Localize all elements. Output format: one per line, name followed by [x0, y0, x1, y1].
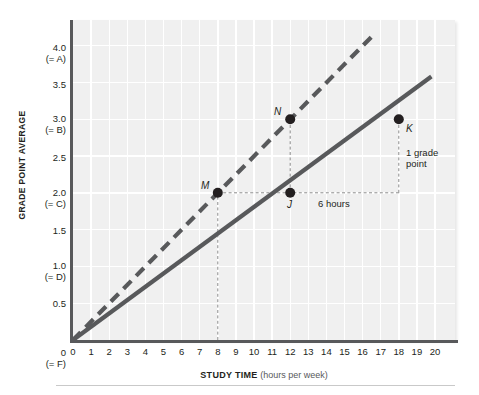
y-tick-3.5: 3.5: [6, 79, 66, 90]
rise-annotation-line1: 1 grade: [406, 147, 438, 158]
y-tick-3.0: 3.0 (= B): [6, 113, 66, 135]
y-tick-4.0: 4.0 (= A): [6, 42, 66, 64]
rise-annotation-line2: point: [406, 158, 427, 169]
chart-figure: M N J K 6 hours 1 grade point 4.0 (= A) …: [0, 0, 479, 395]
plot-area: M N J K 6 hours 1 grade point: [73, 20, 455, 340]
y-tick-0.5: 0.5: [6, 298, 66, 309]
y-tick-2.5-value: 2.5: [53, 152, 66, 163]
y-tick-1.5-value: 1.5: [53, 225, 66, 236]
y-tick-4.0-grade: (= A): [6, 53, 66, 64]
data-point-m: [213, 188, 223, 198]
x-axis-title: STUDY TIME (hours per week): [73, 370, 455, 380]
data-point-n: [285, 114, 295, 124]
y-axis-title: GRADE POINT AVERAGE: [17, 90, 27, 240]
bottom-divider: [56, 385, 455, 386]
point-label-j: J: [287, 199, 292, 210]
x-axis-title-main: STUDY TIME: [200, 370, 257, 380]
run-annotation: 6 hours: [318, 198, 350, 209]
y-tick-2.0-value: 2.0: [53, 187, 66, 198]
data-point-j: [285, 188, 295, 198]
y-tick-3.5-value: 3.5: [53, 79, 66, 90]
y-axis-line: [70, 20, 73, 340]
series-steep-line: [73, 35, 374, 340]
y-tick-1.0: 1.0 (= D): [6, 260, 66, 282]
x-axis-line: [70, 340, 458, 343]
y-tick-2.5: 2.5: [6, 152, 66, 163]
y-tick-4.0-value: 4.0: [53, 42, 66, 53]
y-tick-2.0: 2.0 (= C): [6, 187, 66, 209]
data-point-k: [394, 114, 404, 124]
x-axis-tick-labels: 0 1 2 3 4 5 6 7 8 9 10 11 12 13 14 15 16…: [0, 346, 479, 362]
series-shallow-line: [73, 77, 431, 341]
point-label-k: K: [406, 123, 413, 134]
rise-annotation: 1 grade point: [406, 147, 438, 169]
y-tick-1.0-value: 1.0: [53, 260, 66, 271]
y-tick-0.5-value: 0.5: [53, 298, 66, 309]
point-label-m: M: [201, 180, 209, 191]
x-axis-title-unit: (hours per week): [260, 370, 328, 380]
y-tick-1.0-grade: (= D): [6, 271, 66, 282]
y-tick-3.0-value: 3.0: [53, 113, 66, 124]
y-tick-2.0-grade: (= C): [6, 198, 66, 209]
point-label-n: N: [274, 106, 281, 117]
x-tick-20: 20: [423, 346, 447, 357]
y-tick-3.0-grade: (= B): [6, 124, 66, 135]
y-tick-1.5: 1.5: [6, 225, 66, 236]
chart-data-layer: [73, 20, 455, 340]
y-axis-tick-labels: 4.0 (= A) 3.5 3.0 (= B) 2.5 2.0 (= C) 1.…: [0, 0, 66, 395]
